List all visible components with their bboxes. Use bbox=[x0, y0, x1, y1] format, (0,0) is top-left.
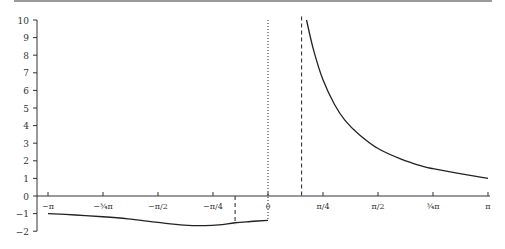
y-tick-label: 8 bbox=[23, 51, 29, 61]
y-tick-label: 0 bbox=[23, 192, 29, 202]
x-tick-label: −¾π bbox=[93, 202, 113, 211]
x-tick-label: ¾π bbox=[426, 202, 439, 211]
y-tick-label: 4 bbox=[23, 121, 29, 131]
axes: −2−1012345678910−π−¾π−π/2−π/40π/4π/2¾ππ bbox=[16, 16, 491, 237]
y-tick-label: 10 bbox=[18, 16, 30, 26]
x-tick-label: −π bbox=[42, 202, 54, 211]
y-tick-label: 9 bbox=[23, 33, 29, 43]
y-tick-label: 2 bbox=[23, 156, 29, 166]
x-tick-label: −π/2 bbox=[148, 202, 168, 211]
x-tick-label: π bbox=[485, 202, 490, 211]
y-tick-label: 7 bbox=[23, 68, 29, 78]
y-tick-label: −2 bbox=[16, 227, 29, 237]
line-chart: −2−1012345678910−π−¾π−π/2−π/40π/4π/2¾ππ bbox=[0, 0, 505, 249]
y-tick-label: 3 bbox=[23, 139, 29, 149]
x-tick-label: −π/4 bbox=[203, 202, 223, 211]
x-tick-label: π/4 bbox=[316, 202, 329, 211]
x-tick-label: π/2 bbox=[371, 202, 384, 211]
y-tick-label: 5 bbox=[23, 104, 29, 114]
y-tick-label: −1 bbox=[16, 209, 29, 219]
y-tick-label: 1 bbox=[23, 174, 29, 184]
curve-right-branch bbox=[307, 20, 488, 178]
y-tick-label: 6 bbox=[23, 86, 29, 96]
